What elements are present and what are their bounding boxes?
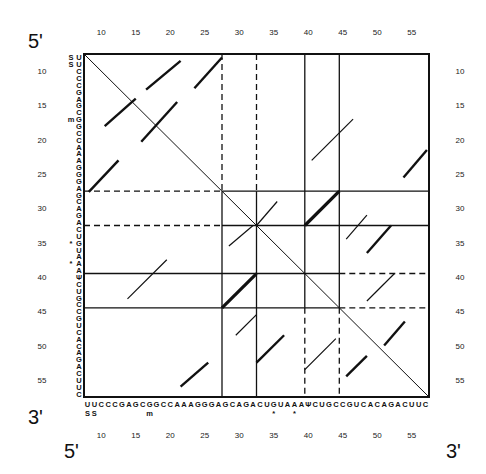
base-letter: G bbox=[154, 400, 160, 409]
base-letter: G bbox=[223, 400, 229, 409]
helix-segment bbox=[305, 191, 340, 225]
base-letter: C bbox=[402, 400, 408, 409]
base-letter: G bbox=[209, 400, 215, 409]
base-letter: U bbox=[416, 400, 421, 409]
base-letter: A bbox=[292, 400, 298, 409]
helix-segment bbox=[127, 260, 166, 299]
tick-label: 30 bbox=[235, 431, 244, 440]
base-letter: A bbox=[285, 400, 291, 409]
base-letter: Ψ bbox=[305, 400, 311, 409]
tick-label: 35 bbox=[456, 239, 465, 248]
helix-segment bbox=[236, 315, 257, 336]
base-letter: C bbox=[312, 400, 318, 409]
helix-segment bbox=[194, 57, 222, 88]
base-letter: C bbox=[105, 400, 111, 409]
tick-label: 15 bbox=[131, 28, 140, 37]
tick-label: 15 bbox=[456, 101, 465, 110]
tick-label: 10 bbox=[456, 67, 465, 76]
tick-label: 55 bbox=[38, 376, 47, 385]
helix-segment bbox=[346, 215, 367, 239]
tick-label: 20 bbox=[38, 136, 47, 145]
base-letter: G bbox=[388, 400, 394, 409]
tick-label: 20 bbox=[166, 431, 175, 440]
base-letter: C bbox=[168, 400, 174, 409]
base-letter: C bbox=[375, 400, 381, 409]
base-letter: G bbox=[243, 400, 249, 409]
base-letter: U bbox=[85, 400, 90, 409]
base-letter: A bbox=[395, 400, 401, 409]
base-letter: U bbox=[319, 400, 324, 409]
base-letter: C bbox=[99, 400, 105, 409]
base-letter: A bbox=[126, 400, 132, 409]
tick-label: 15 bbox=[38, 101, 47, 110]
left-axis-ticks: 10152025303540455055 bbox=[38, 67, 47, 385]
tick-label: 50 bbox=[38, 342, 47, 351]
tick-label: 10 bbox=[97, 431, 106, 440]
helix-segments bbox=[89, 57, 427, 386]
base-letter: A bbox=[250, 400, 256, 409]
helix-segment bbox=[229, 226, 253, 247]
bottom-sequence: UUCCCGAGCGGCCAAAGGGAGCAGACUGUAAAΨCUGCCGU… bbox=[85, 400, 429, 418]
base-letter: A bbox=[381, 400, 387, 409]
helix-segment bbox=[141, 102, 177, 142]
base-letter: A bbox=[188, 400, 194, 409]
base-letter: A bbox=[181, 400, 187, 409]
tick-label: 25 bbox=[38, 170, 47, 179]
helix-segment bbox=[346, 356, 367, 377]
modification-mark: * bbox=[70, 239, 73, 248]
tick-label: 40 bbox=[304, 28, 313, 37]
modification-mark: * bbox=[293, 409, 296, 418]
helix-segment bbox=[181, 363, 209, 387]
helix-segment bbox=[403, 150, 426, 177]
tick-label: 45 bbox=[338, 28, 347, 37]
modification-mark: * bbox=[272, 409, 275, 418]
tick-label: 10 bbox=[97, 28, 106, 37]
base-letter: C bbox=[333, 400, 339, 409]
tick-label: 20 bbox=[456, 136, 465, 145]
base-letter: C bbox=[257, 400, 263, 409]
tick-label: 25 bbox=[456, 170, 465, 179]
modification-mark: S bbox=[92, 409, 97, 418]
base-letter: A bbox=[174, 400, 180, 409]
helix-segment bbox=[146, 61, 181, 90]
base-letter: A bbox=[368, 400, 374, 409]
helix-segment bbox=[105, 99, 136, 126]
rna-dot-plot: 10152025303540455055 1015202530354045505… bbox=[0, 0, 486, 474]
modification-mark: S bbox=[68, 60, 73, 69]
base-letter: G bbox=[133, 400, 139, 409]
base-letter: A bbox=[299, 400, 305, 409]
helix-segment bbox=[312, 119, 353, 160]
left-sequence: UUCCCGAGCGGCCAAAGGGAGCAGACUGUAAAΨCUGCCGU… bbox=[68, 53, 83, 398]
tick-label: 30 bbox=[38, 204, 47, 213]
modification-mark: m bbox=[146, 409, 153, 418]
tick-label: 55 bbox=[407, 28, 416, 37]
helix-segment bbox=[257, 335, 285, 362]
base-letter: G bbox=[326, 400, 332, 409]
tick-label: 40 bbox=[456, 273, 465, 282]
tick-label: 15 bbox=[131, 431, 140, 440]
helix-segment bbox=[89, 160, 119, 192]
modification-mark: S bbox=[85, 409, 90, 418]
base-letter: G bbox=[147, 400, 153, 409]
tick-label: 20 bbox=[166, 28, 175, 37]
tick-label: 50 bbox=[373, 28, 382, 37]
base-letter: C bbox=[112, 400, 118, 409]
base-letter: U bbox=[264, 400, 269, 409]
base-letter: G bbox=[119, 400, 125, 409]
base-letter: C bbox=[230, 400, 236, 409]
right-axis-ticks: 10152025303540455055 bbox=[456, 67, 465, 385]
top-axis-ticks: 10152025303540455055 bbox=[97, 28, 417, 37]
tick-label: 50 bbox=[373, 431, 382, 440]
tick-label: 45 bbox=[456, 307, 465, 316]
tick-label: 55 bbox=[407, 431, 416, 440]
tick-label: 30 bbox=[235, 28, 244, 37]
base-letter: G bbox=[347, 400, 353, 409]
tick-label: 40 bbox=[304, 431, 313, 440]
base-letter: A bbox=[216, 400, 222, 409]
tick-label: 55 bbox=[456, 376, 465, 385]
modification-mark: m bbox=[68, 115, 75, 124]
tick-label: 50 bbox=[456, 342, 465, 351]
modification-mark: * bbox=[70, 259, 73, 268]
base-letter: U bbox=[92, 400, 97, 409]
base-letter: G bbox=[202, 400, 208, 409]
